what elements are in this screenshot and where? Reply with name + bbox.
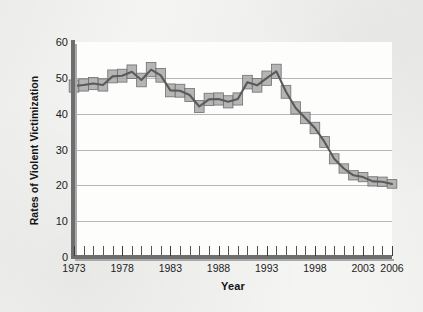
x-tick-major bbox=[170, 246, 171, 256]
x-tick-major bbox=[219, 246, 220, 256]
x-tick-minor bbox=[276, 246, 277, 255]
y-tick-label: 60 bbox=[42, 37, 68, 48]
x-tick-minor bbox=[257, 246, 258, 255]
y-axis-title: Rates of Violent Victimization bbox=[26, 43, 42, 258]
x-tick-minor bbox=[334, 246, 335, 255]
y-tick-label: 10 bbox=[42, 216, 68, 227]
x-tick-label: 1983 bbox=[150, 262, 190, 274]
y-tick-label: 30 bbox=[42, 145, 68, 156]
x-tick-minor bbox=[247, 246, 248, 255]
confidence-band bbox=[69, 62, 397, 188]
x-tick-major bbox=[315, 246, 316, 256]
x-tick-minor bbox=[228, 246, 229, 255]
x-tick-minor bbox=[305, 246, 306, 255]
x-tick-major bbox=[74, 246, 75, 256]
x-tick-minor bbox=[190, 246, 191, 255]
x-tick-major bbox=[267, 246, 268, 256]
x-tick-minor bbox=[93, 246, 94, 255]
x-tick-minor bbox=[103, 246, 104, 255]
x-tick-minor bbox=[373, 246, 374, 255]
x-tick-label: 1988 bbox=[199, 262, 239, 274]
x-tick-minor bbox=[296, 246, 297, 255]
x-tick-major bbox=[363, 246, 364, 256]
x-tick-minor bbox=[151, 246, 152, 255]
x-tick-minor bbox=[199, 246, 200, 255]
x-tick-minor bbox=[382, 246, 383, 255]
x-tick-minor bbox=[180, 246, 181, 255]
x-tick-minor bbox=[132, 246, 133, 255]
y-tick-label: 40 bbox=[42, 109, 68, 120]
x-tick-minor bbox=[325, 246, 326, 255]
x-tick-minor bbox=[286, 246, 287, 255]
x-axis-spine-shadow bbox=[75, 259, 394, 261]
y-tick-label: 20 bbox=[42, 180, 68, 191]
x-tick-label: 1998 bbox=[295, 262, 335, 274]
x-tick-label: 1993 bbox=[247, 262, 287, 274]
x-tick-label: 2006 bbox=[372, 262, 412, 274]
x-tick-minor bbox=[238, 246, 239, 255]
x-tick-minor bbox=[353, 246, 354, 255]
x-tick-label: 1978 bbox=[102, 262, 142, 274]
chart-figure: 0102030405060 19731978198319881993199820… bbox=[0, 0, 423, 312]
x-tick-minor bbox=[84, 246, 85, 255]
series-layer bbox=[74, 42, 392, 257]
x-tick-minor bbox=[113, 246, 114, 255]
x-tick-label: 1973 bbox=[54, 262, 94, 274]
x-tick-minor bbox=[141, 246, 142, 255]
x-tick-major bbox=[122, 246, 123, 256]
x-tick-major bbox=[392, 246, 393, 256]
x-axis-title: Year bbox=[74, 280, 392, 292]
y-tick-label: 50 bbox=[42, 73, 68, 84]
x-tick-minor bbox=[344, 246, 345, 255]
y-axis-spine-shadow bbox=[75, 44, 77, 259]
x-tick-minor bbox=[209, 246, 210, 255]
x-tick-minor bbox=[161, 246, 162, 255]
